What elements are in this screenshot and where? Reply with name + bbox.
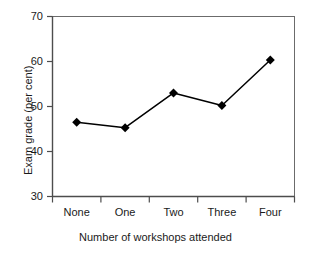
y-tick-label-30: 30 (17, 191, 43, 202)
chart-container: 70 60 50 40 30 None One Two Three Four N… (0, 0, 311, 254)
x-tick-label-one: One (101, 207, 149, 218)
y-axis-ticks (47, 17, 53, 197)
x-axis-ticks (53, 197, 295, 203)
x-tick-label-four: Four (246, 207, 294, 218)
x-tick-label-none: None (53, 207, 101, 218)
x-tick-label-two: Two (150, 207, 198, 218)
x-tick-label-three: Three (198, 207, 246, 218)
x-axis-title: Number of workshops attended (0, 231, 311, 243)
plot-area-border (53, 17, 295, 197)
y-tick-label-70: 70 (17, 11, 43, 22)
y-axis-title: Exam grade (per cent) (22, 66, 34, 175)
